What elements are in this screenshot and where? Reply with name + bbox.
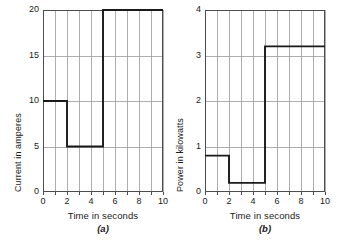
plot-area-b — [205, 10, 325, 192]
y-axis-label-a: Current in amperes — [13, 113, 23, 192]
chart-svg-a — [43, 10, 163, 192]
chart-panel-b: Power in kilowatts Time in seconds (b) 0… — [178, 0, 347, 241]
x-tick-label: 8 — [289, 196, 313, 206]
x-tick-label: 2 — [217, 196, 241, 206]
y-tick-label: 2 — [183, 95, 201, 105]
x-tick-label: 6 — [265, 196, 289, 206]
x-tick-label: 4 — [79, 196, 103, 206]
x-tick-label: 4 — [241, 196, 265, 206]
panel-caption-a: (a) — [43, 223, 163, 234]
y-tick-label: 0 — [21, 186, 39, 196]
chart-panel-a: Current in amperes Time in seconds (a) 0… — [0, 0, 178, 241]
x-tick-label: 0 — [193, 196, 217, 206]
data-step-line-b — [205, 46, 325, 183]
plot-area-a — [43, 10, 163, 192]
x-axis-label-b: Time in seconds — [205, 210, 325, 221]
y-tick-label: 1 — [183, 141, 201, 151]
y-tick-label: 10 — [21, 95, 39, 105]
y-tick-label: 20 — [21, 4, 39, 14]
x-tick-label: 0 — [31, 196, 55, 206]
x-tick-label: 8 — [127, 196, 151, 206]
y-tick-label: 4 — [183, 4, 201, 14]
data-step-line-a — [43, 10, 163, 147]
y-tick-label: 15 — [21, 50, 39, 60]
y-tick-label: 5 — [21, 141, 39, 151]
chart-svg-b — [205, 10, 325, 192]
y-axis-label-b: Power in kilowatts — [175, 118, 185, 192]
y-tick-label: 0 — [183, 186, 201, 196]
x-tick-label: 10 — [151, 196, 175, 206]
y-tick-label: 3 — [183, 50, 201, 60]
panel-caption-b: (b) — [205, 223, 325, 234]
x-tick-label: 10 — [313, 196, 337, 206]
x-tick-label: 6 — [103, 196, 127, 206]
figure-two-panel-step-charts: Current in amperes Time in seconds (a) 0… — [0, 0, 347, 241]
x-axis-label-a: Time in seconds — [43, 210, 163, 221]
x-tick-label: 2 — [55, 196, 79, 206]
